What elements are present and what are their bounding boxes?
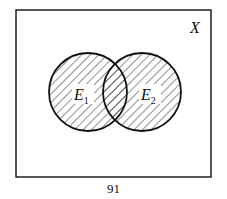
universe-label: X	[189, 19, 201, 36]
page-number: 91	[0, 181, 227, 197]
venn-diagram: X E1 E2	[0, 0, 227, 199]
